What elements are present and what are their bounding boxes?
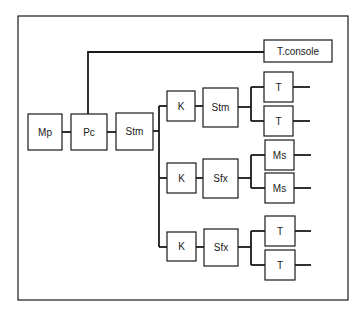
node-pc: Pc: [71, 114, 107, 150]
node-t3a: T: [265, 216, 295, 246]
diagram-nodes: MpPcStmT.consoleKStmTTKSfxMsMsKSfxTT: [28, 40, 332, 280]
node-label: Ms: [273, 150, 286, 161]
node-mp: Mp: [28, 114, 62, 150]
node-sfx-1: Sfx: [203, 159, 238, 198]
node-label: Mp: [38, 127, 52, 138]
node-t3b: T: [265, 250, 295, 280]
node-sfx-2: Sfx: [204, 229, 238, 266]
node-stm-main: Stm: [116, 113, 153, 150]
node-label: K: [178, 101, 185, 112]
node-label: T: [275, 116, 281, 127]
node-ms-a: Ms: [265, 140, 294, 170]
node-label: Stm: [126, 126, 144, 137]
node-ms-b: Ms: [265, 173, 294, 203]
node-k1: K: [167, 91, 195, 121]
node-label: K: [178, 241, 185, 252]
node-k3: K: [167, 232, 196, 261]
node-t1b: T: [264, 106, 293, 136]
node-label: Pc: [83, 127, 95, 138]
node-t1a: T: [264, 72, 293, 102]
node-k2: K: [167, 163, 196, 193]
node-label: T: [277, 260, 283, 271]
node-label: T.console: [277, 46, 320, 57]
node-label: T: [277, 226, 283, 237]
node-label: Sfx: [214, 242, 228, 253]
node-tconsole: T.console: [264, 40, 332, 62]
node-stm-1: Stm: [203, 88, 238, 127]
block-diagram: MpPcStmT.consoleKStmTTKSfxMsMsKSfxTT: [0, 0, 360, 311]
node-label: Ms: [273, 183, 286, 194]
node-label: T: [275, 82, 281, 93]
node-label: K: [178, 173, 185, 184]
node-label: Stm: [212, 102, 230, 113]
node-label: Sfx: [213, 173, 227, 184]
